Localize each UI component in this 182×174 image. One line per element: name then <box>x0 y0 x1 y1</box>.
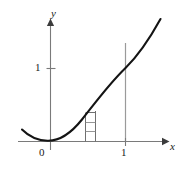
origin-label: 0 <box>39 147 45 158</box>
x-axis-label: x <box>170 141 175 152</box>
math-graph-figure: y x 0 1 1 <box>0 0 182 174</box>
y-tick-one-label: 1 <box>35 62 41 73</box>
y-axis-label: y <box>51 8 56 19</box>
x-tick-one-label: 1 <box>121 147 127 158</box>
y-axis-arrowhead <box>47 19 54 27</box>
graph-canvas <box>0 0 182 174</box>
x-axis-arrowhead <box>162 138 170 145</box>
